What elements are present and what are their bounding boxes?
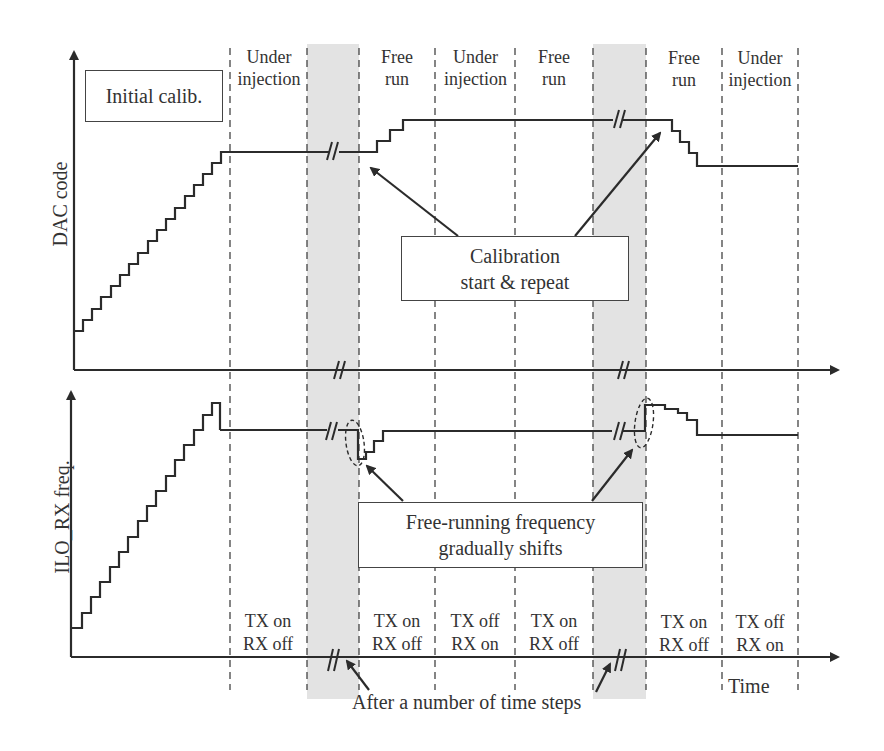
initial-calib-box: Initial calib. — [85, 70, 223, 122]
phase-label-5: Freerun — [646, 47, 722, 91]
state-5-line1: TX on — [646, 611, 722, 634]
phase-label-4: Freerun — [515, 46, 593, 90]
state-label-5: TX onRX off — [646, 611, 722, 657]
phase-5-line2: run — [646, 69, 722, 91]
time-steps-annotation: After a number of time steps — [352, 691, 581, 713]
calibration-callout-line1: Calibration — [402, 243, 628, 269]
state-4-line1: TX on — [515, 610, 593, 633]
state-6-line1: TX off — [722, 611, 798, 634]
freq-shift-callout-line2: gradually shifts — [359, 535, 642, 561]
time-axis-label: Time — [728, 675, 770, 697]
initial-calib-label: Initial calib. — [106, 85, 203, 107]
phase-5-line1: Free — [646, 47, 722, 69]
calibration-callout-line2: start & repeat — [402, 269, 628, 295]
phase-2-line2: run — [359, 68, 435, 90]
state-label-3: TX offRX on — [435, 610, 515, 656]
state-1-line2: RX off — [230, 633, 306, 656]
phase-1-line1: Under — [231, 46, 307, 68]
phase-2-line1: Free — [359, 46, 435, 68]
state-2-line2: RX off — [359, 633, 435, 656]
freq-shift-callout-box: Free-running frequency gradually shifts — [358, 502, 643, 568]
state-5-line2: RX off — [646, 634, 722, 657]
state-label-4: TX onRX off — [515, 610, 593, 656]
state-6-line2: RX on — [722, 634, 798, 657]
phase-1-line2: injection — [231, 68, 307, 90]
bottom-plot-ylabel: ILO_RX freq. — [51, 452, 75, 582]
top-plot-ylabel: DAC code — [49, 154, 73, 254]
phase-4-line2: run — [515, 68, 593, 90]
phase-6-line2: injection — [722, 69, 798, 91]
state-4-line2: RX off — [515, 633, 593, 656]
state-label-1: TX onRX off — [230, 610, 306, 656]
state-label-6: TX offRX on — [722, 611, 798, 657]
state-3-line1: TX off — [435, 610, 515, 633]
phase-4-line1: Free — [515, 46, 593, 68]
phase-3-line2: injection — [436, 68, 515, 90]
phase-3-line1: Under — [436, 46, 515, 68]
state-2-line1: TX on — [359, 610, 435, 633]
phase-label-3: Underinjection — [436, 46, 515, 90]
state-label-2: TX onRX off — [359, 610, 435, 656]
calibration-callout-box: Calibration start & repeat — [401, 236, 629, 301]
phase-label-2: Freerun — [359, 46, 435, 90]
phase-label-6: Underinjection — [722, 47, 798, 91]
state-3-line2: RX on — [435, 633, 515, 656]
phase-6-line1: Under — [722, 47, 798, 69]
time-gap-band-1 — [307, 44, 359, 699]
freq-shift-callout-line1: Free-running frequency — [359, 509, 642, 535]
phase-label-1: Underinjection — [231, 46, 307, 90]
state-1-line1: TX on — [230, 610, 306, 633]
